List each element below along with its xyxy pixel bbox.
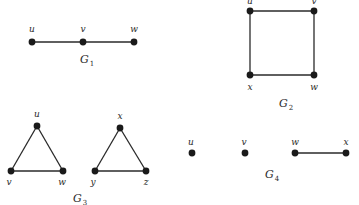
- vertex-u: [29, 39, 36, 46]
- graph-g3: uvwxyzG3: [6, 109, 149, 205]
- vertex-v: [311, 8, 318, 15]
- graph-g1: uvwG1: [29, 24, 139, 68]
- edge-w-u: [37, 126, 63, 171]
- graph-label: G2: [279, 97, 293, 112]
- vertex-v: [80, 39, 87, 46]
- vertex-x: [117, 125, 124, 132]
- vertex-y: [92, 168, 99, 175]
- vertex-w: [60, 168, 67, 175]
- vertex-label-w: w: [58, 177, 66, 187]
- edge-z-x: [120, 128, 146, 171]
- edge-x-y: [95, 128, 120, 171]
- vertex-label-u: u: [247, 0, 253, 6]
- vertex-label-x: x: [247, 82, 252, 92]
- vertex-label-x: x: [117, 111, 122, 121]
- vertex-w: [131, 39, 138, 46]
- vertex-z: [143, 168, 150, 175]
- vertex-label-u: u: [188, 137, 194, 147]
- vertex-label-y: y: [89, 177, 96, 187]
- vertex-label-v: v: [6, 177, 11, 187]
- vertex-label-u: u: [29, 24, 35, 34]
- vertex-u: [247, 8, 254, 15]
- vertex-label-w: w: [291, 137, 299, 147]
- vertex-u: [34, 123, 41, 130]
- graph-label: G4: [265, 168, 280, 183]
- graph-label: G3: [73, 192, 87, 205]
- graph-g4: uvwxG4: [188, 137, 349, 183]
- graph-g2: uvxwG2: [247, 0, 319, 112]
- vertex-v: [242, 150, 249, 157]
- graph-diagram-canvas: uvwG1uvxwG2uvwxyzG3uvwxG4: [0, 0, 359, 205]
- vertex-label-v: v: [80, 24, 85, 34]
- graph-label: G1: [80, 53, 94, 68]
- edge-u-v: [11, 126, 37, 171]
- vertex-x: [343, 150, 350, 157]
- vertex-label-x: x: [343, 137, 348, 147]
- vertex-w: [292, 150, 299, 157]
- vertex-u: [189, 150, 196, 157]
- vertex-label-z: z: [143, 177, 149, 187]
- vertex-label-v: v: [241, 137, 246, 147]
- vertex-w: [311, 72, 318, 79]
- vertex-x: [247, 72, 254, 79]
- vertex-label-w: w: [130, 24, 138, 34]
- vertex-label-w: w: [310, 82, 318, 92]
- vertex-label-v: v: [311, 0, 316, 6]
- vertex-label-u: u: [34, 109, 40, 119]
- vertex-v: [8, 168, 15, 175]
